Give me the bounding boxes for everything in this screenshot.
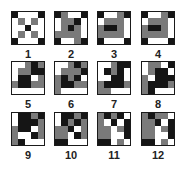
pattern-label: 4 (141, 48, 175, 60)
pattern-label: 1 (11, 48, 45, 60)
pattern-item: 6 (54, 61, 88, 110)
pattern-item: 8 (141, 61, 175, 110)
pattern-label: 3 (97, 48, 131, 60)
pattern-grid (11, 61, 45, 95)
pattern-item: 5 (11, 61, 45, 110)
grid-cell (168, 38, 174, 44)
pattern-item: 1 (11, 11, 45, 60)
pattern-grid (141, 112, 175, 146)
pattern-label: 9 (11, 149, 45, 161)
pattern-label: 2 (54, 48, 88, 60)
pattern-label: 10 (54, 149, 88, 161)
grid-cell (124, 139, 130, 145)
grid-cell (81, 38, 87, 44)
pattern-grid (11, 112, 45, 146)
grid-cell (168, 139, 174, 145)
pattern-label: 7 (97, 98, 131, 110)
pattern-item: 2 (54, 11, 88, 60)
pattern-grid (54, 112, 88, 146)
pattern-grid (141, 11, 175, 45)
pattern-item: 7 (97, 61, 131, 110)
pattern-item: 11 (97, 112, 131, 161)
pattern-label: 12 (141, 149, 175, 161)
pattern-grid (54, 11, 88, 45)
pattern-grid (11, 11, 45, 45)
grid-cell (81, 88, 87, 94)
pattern-grid (54, 61, 88, 95)
grid-cell (38, 38, 44, 44)
pattern-item: 3 (97, 11, 131, 60)
grid-cell (124, 88, 130, 94)
pattern-grid (97, 11, 131, 45)
grid-cell (168, 88, 174, 94)
pattern-label: 8 (141, 98, 175, 110)
pattern-grid (141, 61, 175, 95)
pattern-grid (97, 61, 131, 95)
pattern-label: 5 (11, 98, 45, 110)
grid-cell (124, 38, 130, 44)
pattern-item: 9 (11, 112, 45, 161)
pattern-label: 11 (97, 149, 131, 161)
grid-cell (38, 88, 44, 94)
pattern-item: 4 (141, 11, 175, 60)
grid-cell (81, 139, 87, 145)
pattern-item: 12 (141, 112, 175, 161)
pattern-grid (97, 112, 131, 146)
pattern-label: 6 (54, 98, 88, 110)
grid-cell (38, 139, 44, 145)
pattern-item: 10 (54, 112, 88, 161)
